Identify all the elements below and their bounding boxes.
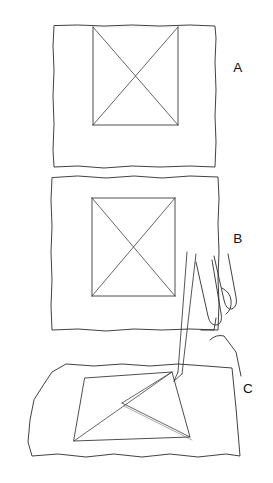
line-drawing-figure: A B — [0, 0, 273, 483]
panel-c-paper-sheet — [28, 364, 240, 457]
panel-c-label: C — [243, 381, 253, 396]
panel-b-paper-sheet — [51, 176, 219, 331]
hand-finger-3 — [222, 288, 231, 314]
panel-a-label: A — [233, 60, 242, 75]
pen-right-edge — [182, 254, 196, 374]
panel-c-pen-stylus — [174, 252, 196, 381]
hand-back-outline — [210, 336, 241, 377]
panel-c-diagonal-chevron-lower-shadow — [124, 406, 192, 440]
panel-c: C — [28, 252, 253, 457]
panel-c-diagonal-chevron-lower — [122, 403, 190, 437]
hand-knuckle-line — [201, 318, 216, 330]
panel-a: A — [53, 25, 243, 168]
hand-finger-2 — [214, 254, 237, 309]
pen-left-edge — [178, 252, 187, 372]
panel-b: B — [51, 176, 243, 331]
panel-c-diagonal-drawn-full — [74, 372, 172, 441]
panel-a-paper-sheet — [53, 25, 216, 168]
figure-canvas: A B — [0, 0, 273, 483]
panel-b-label: B — [233, 231, 242, 246]
panel-c-diagonal-chevron-upper — [122, 372, 172, 403]
hand-finger-1 — [196, 260, 222, 325]
